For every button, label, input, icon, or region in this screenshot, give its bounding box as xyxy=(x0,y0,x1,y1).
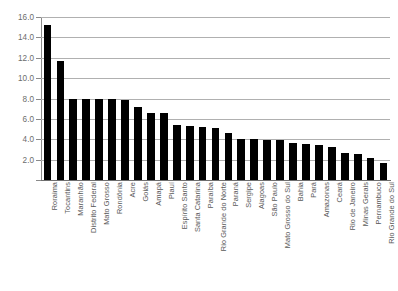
x-axis-tick-label: Mato Grosso xyxy=(102,182,111,225)
y-axis-tick-baseline xyxy=(36,180,41,181)
x-axis-line xyxy=(41,180,391,181)
x-axis-tick-label: Rondônia xyxy=(115,182,124,214)
y-axis-tick xyxy=(36,58,41,59)
bar xyxy=(354,154,362,180)
x-axis-tick-label: Amazonas xyxy=(322,182,331,217)
bar xyxy=(328,147,336,180)
bar xyxy=(160,113,168,180)
x-axis-tick-label: São Paulo xyxy=(270,182,279,217)
bar xyxy=(186,126,194,180)
bar xyxy=(315,145,323,180)
bar xyxy=(95,99,103,181)
y-axis-tick xyxy=(36,99,41,100)
y-axis-tick-label: 8.0 xyxy=(23,94,34,103)
bar xyxy=(69,99,77,181)
x-axis-tick-label: Goiás xyxy=(141,182,150,202)
bar xyxy=(108,99,116,181)
x-axis-tick-label: Rio de Janeiro xyxy=(348,182,357,230)
x-axis-tick-label: Pará xyxy=(309,182,318,198)
x-axis-tick-label: Sergipe xyxy=(244,182,253,208)
bar xyxy=(341,153,349,181)
y-axis-tick xyxy=(36,119,41,120)
x-axis-tick-label: Bahia xyxy=(296,182,305,201)
bar xyxy=(44,25,52,180)
y-axis-tick-label: 4.0 xyxy=(23,135,34,144)
bar xyxy=(250,139,258,180)
y-axis-tick-label: 14.0 xyxy=(18,33,34,42)
y-axis-tick xyxy=(36,17,41,18)
bar xyxy=(173,125,181,180)
x-axis-tick-label: Maranhão xyxy=(76,182,85,216)
x-axis-tick-label: Rio Grande do Sul xyxy=(387,182,396,244)
bar xyxy=(380,163,388,180)
bar xyxy=(289,143,297,180)
x-axis-tick-label: Minas Gerais xyxy=(361,182,370,226)
y-axis-tick-label: 6.0 xyxy=(23,114,34,123)
bar-chart: 16.014.012.010.08.06.04.02.0 RoraimaToca… xyxy=(0,0,398,291)
y-axis-tick xyxy=(36,139,41,140)
y-axis-tick xyxy=(36,160,41,161)
plot-area xyxy=(41,17,390,180)
y-axis-tick-label: 10.0 xyxy=(18,74,34,83)
bar xyxy=(263,140,271,180)
x-axis-tick-label: Acre xyxy=(128,182,137,197)
x-axis-tick-label: Distrito Federal xyxy=(89,182,98,233)
y-axis-tick-label: 2.0 xyxy=(23,155,34,164)
y-axis-tick-label: 16.0 xyxy=(18,13,34,22)
x-axis-tick-label: Tocantins xyxy=(63,182,72,214)
bar xyxy=(225,133,233,180)
bar xyxy=(147,113,155,180)
bar xyxy=(199,127,207,180)
x-axis-tick-label: Paraná xyxy=(231,182,240,206)
y-axis-tick xyxy=(36,37,41,38)
bar xyxy=(212,128,220,180)
y-axis-tick xyxy=(36,78,41,79)
x-axis-tick-label: Alagoas xyxy=(257,182,266,209)
bars xyxy=(41,17,390,180)
x-axis-tick-label: Mato Grosso do Sul xyxy=(283,182,292,248)
y-axis-labels: 16.014.012.010.08.06.04.02.0 xyxy=(0,0,36,291)
x-axis-tick-label: Paraíba xyxy=(206,182,215,208)
y-axis-tick-label: 12.0 xyxy=(18,53,34,62)
x-axis-tick-label: Pernambuco xyxy=(374,182,383,224)
x-axis-tick-label: Rio Grande do Norte xyxy=(219,182,228,251)
bar xyxy=(57,61,65,180)
x-axis-labels: RoraimaTocantinsMaranhãoDistrito Federal… xyxy=(41,182,390,290)
bar xyxy=(82,99,90,181)
bar xyxy=(237,139,245,180)
bar xyxy=(367,158,375,180)
bar xyxy=(134,107,142,180)
x-axis-tick-label: Piauí xyxy=(167,182,176,199)
x-axis-tick-label: Roraima xyxy=(50,182,59,210)
x-axis-tick-label: Santa Catarina xyxy=(193,182,202,232)
bar xyxy=(121,100,129,180)
x-axis-tick-label: Espírito Santo xyxy=(180,182,189,229)
bar xyxy=(276,140,284,180)
bar xyxy=(302,144,310,180)
x-axis-tick-label: Ceará xyxy=(335,182,344,202)
x-axis-tick-label: Amapá xyxy=(154,182,163,206)
